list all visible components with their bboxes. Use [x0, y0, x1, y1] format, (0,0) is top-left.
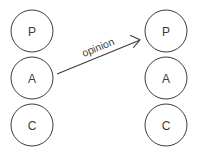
node-label: A: [162, 72, 170, 86]
node-label: C: [28, 119, 37, 133]
node-label: P: [28, 25, 36, 39]
right-stack: P A C: [145, 10, 187, 146]
node-label: A: [28, 72, 36, 86]
node-right-a[interactable]: A: [145, 57, 187, 99]
opinion-arrow[interactable]: opinion: [57, 35, 140, 74]
left-stack: P A C: [11, 10, 53, 146]
node-label: C: [162, 119, 171, 133]
node-left-c[interactable]: C: [11, 104, 53, 146]
node-left-a[interactable]: A: [11, 57, 53, 99]
arrow-label: opinion: [80, 35, 116, 59]
node-label: P: [162, 25, 170, 39]
node-right-p[interactable]: P: [145, 10, 187, 52]
diagram-canvas: P A C opinion P A: [0, 0, 197, 161]
diagram-svg: P A C opinion P A: [0, 0, 197, 161]
node-right-c[interactable]: C: [145, 104, 187, 146]
node-left-p[interactable]: P: [11, 10, 53, 52]
